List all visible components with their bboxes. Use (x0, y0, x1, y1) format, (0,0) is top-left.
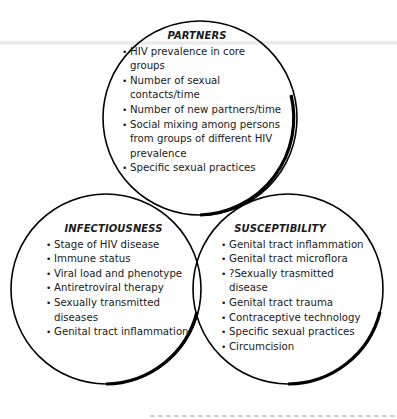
susceptibility-group: SUSCEPTIBILITY Genital tract inflammatio… (221, 222, 371, 354)
list-item: Number of new partners/time (122, 103, 282, 118)
infectiousness-group: INFECTIOUSNESS Stage of HIV disease Immu… (46, 222, 196, 340)
list-item: ?Sexually trasmitted disease (221, 267, 371, 296)
list-item: Genital tract microflora (221, 252, 371, 267)
list-item: Sexually transmitted diseases (46, 296, 196, 325)
list-item: Specific sexual practices (221, 325, 371, 340)
clipped-caption-line (0, 413, 397, 419)
list-item: HIV prevalence in core groups (122, 45, 282, 74)
list-item: Circumcision (221, 340, 371, 355)
list-item: Stage of HIV disease (46, 238, 196, 253)
list-item: Number of sexual contacts/time (122, 74, 282, 103)
list-item: Specific sexual practices (122, 161, 282, 176)
list-item: Immune status (46, 252, 196, 267)
list-item: Genital tract inflammation (221, 238, 371, 253)
list-item: Genital tract trauma (221, 296, 371, 311)
partners-group: PARTNERS HIV prevalence in core groups N… (122, 29, 282, 176)
susceptibility-list: Genital tract inflammation Genital tract… (221, 238, 371, 355)
list-item: Antiretroviral therapy (46, 281, 196, 296)
partners-title: PARTNERS (122, 29, 272, 44)
infectiousness-list: Stage of HIV disease Immune status Viral… (46, 238, 196, 340)
infectiousness-title: INFECTIOUSNESS (46, 222, 181, 237)
list-item: Contraceptive technology (221, 311, 371, 326)
susceptibility-title: SUSCEPTIBILITY (221, 222, 339, 237)
list-item: Genital tract inflammation (46, 325, 196, 340)
list-item: Viral load and phenotype (46, 267, 196, 282)
partners-list: HIV prevalence in core groups Number of … (122, 45, 282, 176)
list-item: Social mixing among persons from groups … (122, 118, 282, 162)
